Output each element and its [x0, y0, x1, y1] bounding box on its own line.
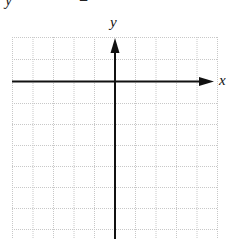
y-axis-arrow-icon [111, 38, 120, 53]
y-axis-label: y [110, 14, 117, 31]
coordinate-grid [0, 0, 226, 239]
x-axis [12, 77, 214, 86]
x-axis-arrow-icon [199, 77, 214, 86]
x-axis-label: x [219, 72, 226, 89]
